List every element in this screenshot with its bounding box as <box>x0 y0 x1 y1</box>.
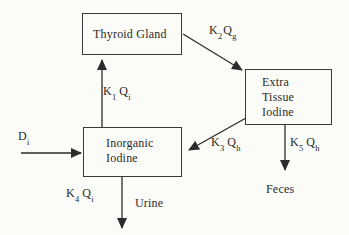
k1-coef-sub: 1 <box>112 92 116 102</box>
box-thyroid-gland: Thyroid Gland <box>82 13 182 55</box>
box-label-thyroid-gland: Thyroid Gland <box>93 27 181 42</box>
k2-coef: K <box>209 23 218 37</box>
k1-coef: K <box>103 84 112 98</box>
k3-var: Q <box>227 135 236 149</box>
flow-label-k1: K1Qi <box>103 85 131 100</box>
k4-var-sub: i <box>91 194 94 204</box>
iodine-compartment-diagram: Thyroid Gland Extra Tissue Iodine Inorga… <box>0 0 349 235</box>
sink-label-feces: Feces <box>266 183 294 196</box>
k2-var: Q <box>223 23 232 37</box>
sink-label-urine: Urine <box>135 197 163 210</box>
k2-coef-sub: 2 <box>218 31 222 41</box>
flow-label-k2: K2Qg <box>209 24 237 39</box>
flow-label-k4: K4Qi <box>66 187 94 202</box>
k5-var: Q <box>306 135 315 149</box>
k4-coef-sub: 4 <box>75 194 79 204</box>
k5-coef-sub: 5 <box>299 143 303 153</box>
k2-var-sub: g <box>232 31 236 41</box>
k3-coef-sub: 3 <box>220 143 224 153</box>
k1-var-sub: i <box>128 92 131 102</box>
box-label-inorganic-iodine: Inorganic Iodine <box>106 136 168 166</box>
k3-var-sub: h <box>236 143 240 153</box>
flow-label-k5: K5Qh <box>290 136 320 151</box>
flow-label-k3: K3Qh <box>211 136 241 151</box>
k1-var: Q <box>119 84 128 98</box>
box-label-extra-tissue-iodine: Extra Tissue Iodine <box>262 75 310 120</box>
k5-var-sub: h <box>315 143 319 153</box>
k3-coef: K <box>211 135 220 149</box>
k5-coef: K <box>290 135 299 149</box>
k4-coef: K <box>66 186 75 200</box>
box-inorganic-iodine: Inorganic Iodine <box>83 127 182 177</box>
d-coef: D <box>18 129 27 143</box>
input-label-d: Di <box>18 130 29 145</box>
k4-var: Q <box>82 186 91 200</box>
box-extra-tissue-iodine: Extra Tissue Iodine <box>245 69 332 125</box>
